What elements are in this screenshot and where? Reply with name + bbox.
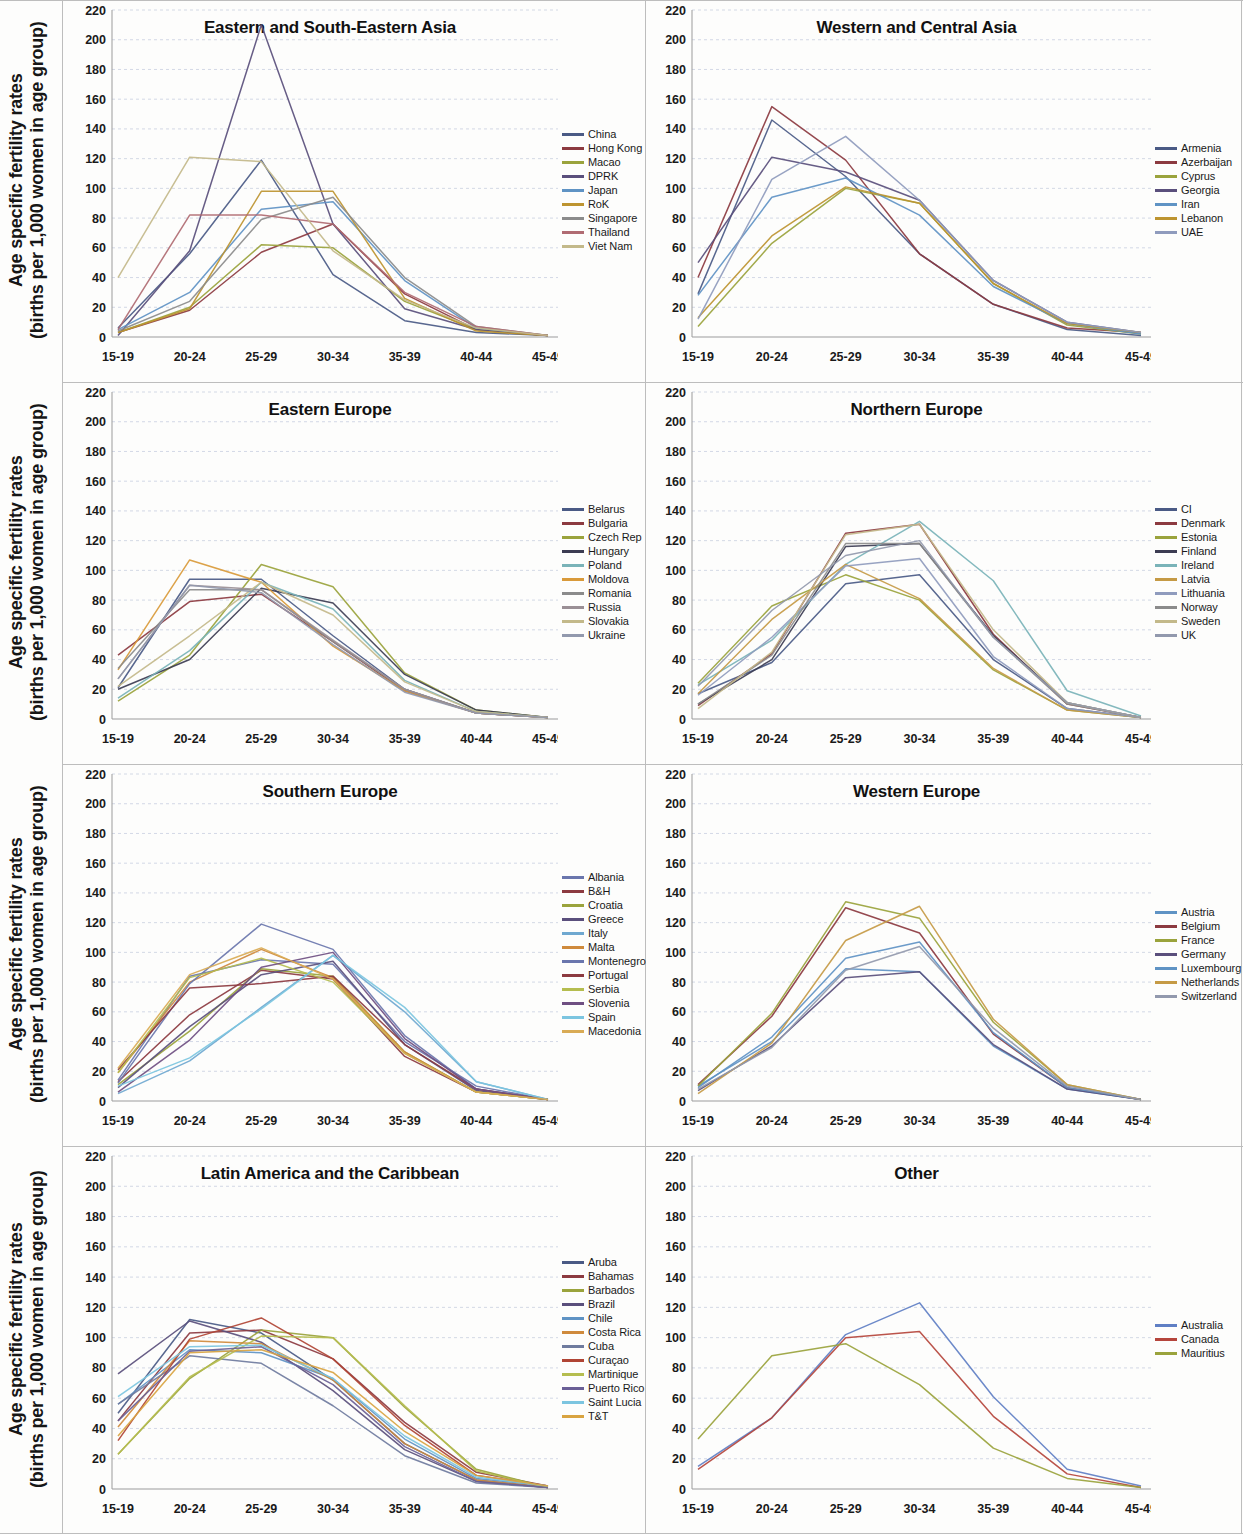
chart-panel-6: Western Europe02040608010012014016018020… xyxy=(650,764,1243,1146)
legend-item[interactable]: Japan xyxy=(562,184,642,196)
x-tick-label: 35-39 xyxy=(977,350,1009,364)
legend-item[interactable]: Netherlands xyxy=(1155,976,1241,988)
series-line xyxy=(698,564,1141,717)
legend-item[interactable]: Brazil xyxy=(562,1298,644,1310)
legend-item[interactable]: Switzerland xyxy=(1155,990,1241,1002)
legend-item[interactable]: Ireland xyxy=(1155,559,1225,571)
legend-item[interactable]: Spain xyxy=(562,1011,646,1023)
legend-item[interactable]: Malta xyxy=(562,941,646,953)
legend-item[interactable]: Bahamas xyxy=(562,1270,644,1282)
series-line xyxy=(698,969,1141,1100)
legend-item[interactable]: DPRK xyxy=(562,170,642,182)
y-tick-label: 40 xyxy=(672,653,686,667)
legend-item[interactable]: Bulgaria xyxy=(562,517,642,529)
series-line xyxy=(698,178,1141,334)
chart-legend-8: AustraliaCanadaMauritius xyxy=(1155,1146,1243,1534)
chart-legend-4: CIDenmarkEstoniaFinlandIrelandLatviaLith… xyxy=(1155,382,1243,764)
chart-legend-5: AlbaniaB&HCroatiaGreeceItalyMaltaMontene… xyxy=(562,764,650,1146)
legend-item[interactable]: Hungary xyxy=(562,545,642,557)
legend-item[interactable]: Albania xyxy=(562,871,646,883)
legend-color-swatch xyxy=(1155,231,1177,234)
legend-label: Luxembourg xyxy=(1181,962,1241,974)
chart-legend-6: AustriaBelgiumFranceGermanyLuxembourgNet… xyxy=(1155,764,1243,1146)
legend-item[interactable]: UK xyxy=(1155,629,1225,641)
legend-item[interactable]: Singapore xyxy=(562,212,642,224)
legend-label: Serbia xyxy=(588,983,619,995)
legend-item[interactable]: Croatia xyxy=(562,899,646,911)
legend-item[interactable]: Finland xyxy=(1155,545,1225,557)
legend-item[interactable]: Barbados xyxy=(562,1284,644,1296)
legend-item[interactable]: Azerbaijan xyxy=(1155,156,1232,168)
legend-item[interactable]: Macedonia xyxy=(562,1025,646,1037)
legend-color-swatch xyxy=(1155,1338,1177,1341)
legend-item[interactable]: Canada xyxy=(1155,1333,1225,1345)
series-line xyxy=(118,157,548,335)
legend-item[interactable]: RoK xyxy=(562,198,642,210)
legend-item[interactable]: Italy xyxy=(562,927,646,939)
legend-item[interactable]: Cyprus xyxy=(1155,170,1232,182)
legend-item[interactable]: Thailand xyxy=(562,226,642,238)
legend-item[interactable]: Portugal xyxy=(562,969,646,981)
series-line xyxy=(698,544,1141,718)
legend-item[interactable]: Saint Lucia xyxy=(562,1396,644,1408)
y-tick-label: 80 xyxy=(92,976,106,990)
legend-item[interactable]: Russia xyxy=(562,601,642,613)
legend-item[interactable]: Martinique xyxy=(562,1368,644,1380)
legend-item[interactable]: France xyxy=(1155,934,1241,946)
legend-item[interactable]: Armenia xyxy=(1155,142,1232,154)
legend-item[interactable]: Costa Rica xyxy=(562,1326,644,1338)
legend-item[interactable]: Czech Rep xyxy=(562,531,642,543)
legend-item[interactable]: Australia xyxy=(1155,1319,1225,1331)
legend-item[interactable]: Estonia xyxy=(1155,531,1225,543)
series-line xyxy=(118,1356,548,1488)
legend-item[interactable]: Macao xyxy=(562,156,642,168)
legend-item[interactable]: China xyxy=(562,128,642,140)
x-tick-label: 45-49 xyxy=(532,732,558,746)
legend-item[interactable]: Slovakia xyxy=(562,615,642,627)
legend-item[interactable]: Greece xyxy=(562,913,646,925)
legend-item[interactable]: Luxembourg xyxy=(1155,962,1241,974)
legend-item[interactable]: CI xyxy=(1155,503,1225,515)
y-tick-label: 100 xyxy=(85,564,106,578)
legend-item[interactable]: Sweden xyxy=(1155,615,1225,627)
y-tick-label: 120 xyxy=(85,916,106,930)
legend-item[interactable]: Lithuania xyxy=(1155,587,1225,599)
x-tick-label: 35-39 xyxy=(977,1114,1009,1128)
y-axis-label-line2: (births per 1,000 women in age group) xyxy=(27,21,47,339)
legend-item[interactable]: Georgia xyxy=(1155,184,1232,196)
legend-item[interactable]: Latvia xyxy=(1155,573,1225,585)
legend-item[interactable]: Austria xyxy=(1155,906,1241,918)
legend-item[interactable]: B&H xyxy=(562,885,646,897)
y-tick-label: 0 xyxy=(99,1095,106,1109)
legend-item[interactable]: Ukraine xyxy=(562,629,642,641)
legend-item[interactable]: Poland xyxy=(562,559,642,571)
y-tick-label: 60 xyxy=(92,1392,106,1406)
legend-label: Ukraine xyxy=(588,629,625,641)
legend-label: UAE xyxy=(1181,226,1203,238)
legend-item[interactable]: Norway xyxy=(1155,601,1225,613)
legend-item[interactable]: Serbia xyxy=(562,983,646,995)
legend-item[interactable]: Belarus xyxy=(562,503,642,515)
legend-item[interactable]: T&T xyxy=(562,1410,644,1422)
legend-item[interactable]: Cuba xyxy=(562,1340,644,1352)
legend-item[interactable]: Curaçao xyxy=(562,1354,644,1366)
legend-item[interactable]: Slovenia xyxy=(562,997,646,1009)
legend-color-swatch xyxy=(1155,592,1177,595)
legend-item[interactable]: Viet Nam xyxy=(562,240,642,252)
legend-item[interactable]: Lebanon xyxy=(1155,212,1232,224)
legend-item[interactable]: UAE xyxy=(1155,226,1232,238)
legend-item[interactable]: Mauritius xyxy=(1155,1347,1225,1359)
legend-item[interactable]: Moldova xyxy=(562,573,642,585)
legend-item[interactable]: Romania xyxy=(562,587,642,599)
legend-item[interactable]: Hong Kong xyxy=(562,142,642,154)
legend-item[interactable]: Germany xyxy=(1155,948,1241,960)
legend-item[interactable]: Puerto Rico xyxy=(562,1382,644,1394)
legend-color-swatch xyxy=(1155,606,1177,609)
legend-label: Switzerland xyxy=(1181,990,1237,1002)
legend-item[interactable]: Belgium xyxy=(1155,920,1241,932)
legend-item[interactable]: Aruba xyxy=(562,1256,644,1268)
legend-item[interactable]: Denmark xyxy=(1155,517,1225,529)
legend-item[interactable]: Montenegro xyxy=(562,955,646,967)
legend-item[interactable]: Iran xyxy=(1155,198,1232,210)
legend-item[interactable]: Chile xyxy=(562,1312,644,1324)
